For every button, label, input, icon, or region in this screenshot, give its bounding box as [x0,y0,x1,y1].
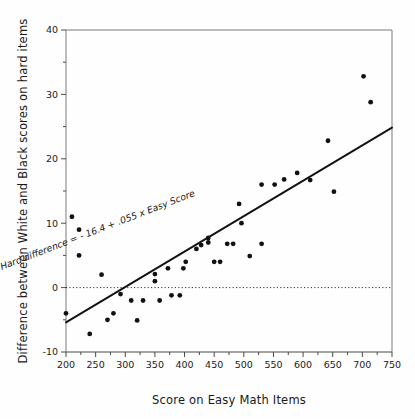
x-tick-label: 300 [116,359,134,370]
data-point [199,243,204,248]
x-axis-label: Score on Easy Math Items [152,393,306,407]
x-tick-label: 400 [175,359,193,370]
x-tick-label: 600 [294,359,312,370]
data-point [361,74,366,79]
data-point [332,189,337,194]
y-tick-label: 20 [46,153,58,164]
data-point [141,298,146,303]
data-point [177,293,182,298]
data-point [111,311,116,316]
data-point [118,292,123,297]
figure-background [0,0,415,419]
x-tick-label: 250 [87,359,105,370]
data-point [272,182,277,187]
x-tick-label: 350 [146,359,164,370]
data-point [212,259,217,264]
x-tick-label: 750 [383,359,401,370]
data-point [259,241,264,246]
data-point [247,254,252,259]
data-point [326,138,331,143]
data-point [153,279,158,284]
y-tick-label: 30 [46,89,58,100]
y-tick-label: -10 [42,346,58,357]
x-tick-label: 500 [235,359,253,370]
data-point [129,298,134,303]
data-point [64,311,69,316]
data-point [225,241,230,246]
chart-canvas: 200250300350400450500550600650700750-100… [0,0,415,419]
data-point [70,214,75,219]
data-point [194,247,199,252]
data-point [99,272,104,277]
y-axis-label: Difference between White and Black score… [16,19,30,364]
data-point [295,171,300,176]
data-point [237,201,242,206]
data-point [166,266,171,271]
data-point [157,298,162,303]
y-tick-label: 0 [52,282,58,293]
x-tick-label: 650 [324,359,342,370]
data-point [231,241,236,246]
x-tick-label: 550 [264,359,282,370]
data-point [218,259,223,264]
data-point [308,178,313,183]
data-point [153,272,158,277]
data-point [77,253,82,258]
data-point [87,332,92,337]
data-point [259,182,264,187]
data-point [206,240,211,245]
x-tick-label: 450 [205,359,223,370]
y-tick-label: 10 [46,218,58,229]
data-point [239,221,244,226]
y-tick-label: 40 [46,24,58,35]
data-point [206,236,211,241]
x-tick-label: 200 [57,359,75,370]
data-point [183,259,188,264]
data-point [282,177,287,182]
data-point [135,318,140,323]
data-point [169,293,174,298]
data-point [105,317,110,322]
x-tick-label: 700 [353,359,371,370]
scatter-plot-figure: 200250300350400450500550600650700750-100… [0,0,415,419]
data-point [181,266,186,271]
data-point [368,100,373,105]
